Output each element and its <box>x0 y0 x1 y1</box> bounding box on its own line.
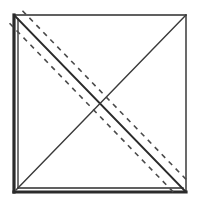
square-crease-pattern-diagram <box>0 0 198 206</box>
figure-container <box>0 0 198 206</box>
